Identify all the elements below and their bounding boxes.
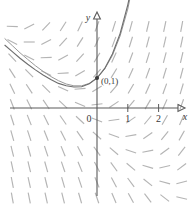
slope-segment [129, 52, 133, 62]
slope-segment [24, 24, 34, 29]
slope-segment [127, 163, 135, 170]
slope-segment [160, 195, 169, 202]
slope-segment [143, 132, 152, 138]
slope-segment [179, 131, 184, 141]
slope-segment [58, 87, 68, 92]
slope-segment [162, 115, 167, 125]
slope-segment [181, 21, 183, 32]
x-tick-label-2: 2 [156, 113, 161, 124]
slope-segment [142, 150, 153, 152]
origin-tick-label: 0 [87, 113, 92, 124]
y-axis-arrowhead [94, 12, 101, 19]
initial-point-group [95, 76, 99, 80]
slope-segment [77, 131, 83, 140]
slope-segment [163, 68, 166, 79]
initial-point-label: (0,1) [101, 76, 118, 86]
x-tick-label-1: 1 [125, 113, 130, 124]
slope-segment [159, 166, 170, 169]
slope-field-figure: y x 0 1 2 (0,1) [0, 0, 194, 206]
slope-segment [44, 115, 49, 125]
slope-segment [112, 193, 116, 203]
slope-segment [159, 181, 170, 184]
slope-segment [177, 163, 186, 170]
slope-segment [76, 116, 84, 123]
slope-segment [11, 161, 13, 172]
slope-segment [180, 99, 184, 109]
slope-segment [58, 73, 69, 74]
slope-segment [129, 68, 134, 78]
slope-segment [42, 85, 50, 93]
slope-segment [109, 134, 119, 138]
slope-segment [111, 162, 117, 171]
slope-segment [129, 21, 132, 32]
slope-segment [129, 37, 132, 48]
slope-segment [78, 146, 83, 156]
slope-segment [59, 38, 67, 46]
slope-segment [128, 84, 134, 93]
slope-segment [11, 115, 14, 125]
slope-segment [60, 22, 66, 31]
slope-segment [77, 37, 83, 46]
slope-segment [45, 193, 47, 204]
slope-segment [180, 52, 182, 63]
slope-segment [26, 84, 32, 93]
slope-segment [45, 162, 48, 173]
slope-segment [28, 193, 30, 204]
slope-segment [28, 161, 31, 172]
slope-segment [9, 69, 15, 78]
slope-segment [61, 162, 65, 172]
slope-segment [62, 193, 65, 204]
slope-segment [126, 149, 136, 152]
slope-segment [75, 102, 85, 106]
slope-segment [109, 119, 120, 121]
slope-segment [11, 177, 13, 188]
slope-segment [44, 130, 48, 140]
slope-segment [111, 178, 116, 188]
slope-segment [8, 54, 16, 62]
slope-segment [25, 69, 33, 77]
slope-field-plot: y x 0 1 2 (0,1) [0, 0, 194, 206]
slope-segment [109, 101, 118, 107]
slope-segment [59, 101, 67, 109]
slope-segment [146, 52, 149, 63]
slope-segment [178, 147, 185, 156]
slope-segment [28, 130, 31, 140]
slope-segment [41, 39, 51, 44]
slope-segment [176, 181, 187, 184]
slope-segment [11, 130, 14, 141]
labels-group: y x 0 1 2 (0,1) [85, 12, 188, 124]
slope-segment [144, 116, 151, 125]
slope-segment [125, 135, 136, 137]
slope-segment [75, 88, 86, 89]
slope-segment [176, 197, 187, 200]
slope-segment [146, 68, 150, 78]
slope-segment [42, 22, 50, 30]
axes-group [10, 12, 185, 196]
slope-segment [143, 165, 154, 168]
slope-segment [75, 70, 84, 76]
slope-segment [28, 146, 31, 157]
slope-segment [164, 37, 167, 48]
slope-segment [144, 194, 151, 203]
slope-segment [44, 146, 47, 156]
slope-segment [147, 21, 150, 32]
slope-segment [78, 177, 82, 187]
slope-segment [58, 55, 68, 60]
slope-segment [60, 115, 66, 124]
slope-segment [78, 162, 82, 172]
slope-segment [146, 84, 151, 94]
slope-segment [76, 54, 83, 62]
slope-segment [160, 148, 169, 155]
slope-segment [164, 21, 166, 32]
slope-segment [128, 178, 135, 187]
slope-segment [163, 52, 166, 63]
slope-segment [181, 37, 183, 48]
x-axis-label: x [182, 111, 188, 122]
slope-segment [10, 84, 15, 94]
slope-segment [146, 37, 149, 48]
slope-segment [28, 177, 30, 188]
slope-segment [110, 148, 118, 155]
slope-segment [61, 131, 66, 141]
slope-segment [11, 193, 13, 204]
y-axis-label: y [85, 12, 91, 23]
